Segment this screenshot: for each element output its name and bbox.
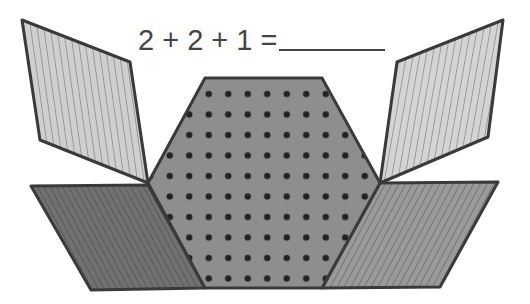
thin-rhombus-top-left: [22, 20, 148, 183]
pattern-block-figure: [0, 0, 530, 304]
thin-rhombus-top-right: [380, 20, 503, 183]
